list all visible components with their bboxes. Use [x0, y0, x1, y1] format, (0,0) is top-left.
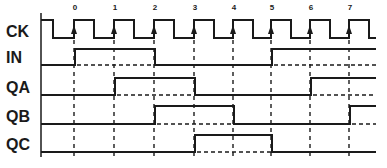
signal-label-ck: CK — [6, 23, 30, 40]
rising-edge-arrow-icon — [151, 25, 157, 34]
waveform-in — [41, 49, 376, 65]
clock-edge-label: 0 — [73, 3, 78, 12]
waveform-ck — [41, 20, 376, 38]
clock-edge-label: 4 — [232, 3, 237, 12]
waveforms — [41, 20, 376, 152]
signal-labels: CKINQAQBQC — [6, 23, 30, 153]
clock-edge-labels: 01234567 — [73, 3, 353, 12]
rising-edge-arrow-icon — [346, 25, 352, 34]
clock-edge-label: 7 — [348, 3, 353, 12]
signal-label-in: IN — [6, 49, 22, 66]
rising-edge-arrow-icon — [111, 25, 117, 34]
clock-edge-label: 3 — [193, 3, 198, 12]
signal-label-qb: QB — [6, 108, 30, 125]
rising-edge-arrow-icon — [230, 25, 236, 34]
rising-edge-arrow-icon — [71, 25, 77, 34]
rising-edge-arrow-icon — [268, 25, 274, 34]
rising-edge-arrow-icon — [307, 25, 313, 34]
waveform-qc — [41, 135, 376, 152]
clock-edge-label: 5 — [270, 3, 275, 12]
clock-edge-guides — [74, 40, 349, 158]
signal-label-qc: QC — [6, 136, 30, 153]
rising-edge-arrow-icon — [191, 25, 197, 34]
signal-label-qa: QA — [6, 79, 30, 96]
clock-edge-label: 6 — [309, 3, 314, 12]
clock-edge-label: 2 — [153, 3, 158, 12]
waveform-qb — [41, 106, 376, 124]
clock-edge-label: 1 — [113, 3, 118, 12]
timing-diagram: CKINQAQBQC 01234567 — [0, 0, 387, 168]
waveform-qa — [41, 78, 376, 95]
